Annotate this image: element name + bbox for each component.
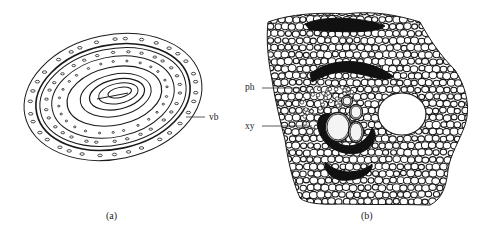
vascular-bundle-dot — [167, 47, 171, 50]
vascular-bundle-dot — [61, 73, 65, 75]
cell — [444, 45, 451, 51]
cell — [275, 65, 282, 71]
caption-b: (b) — [361, 210, 373, 222]
vascular-bundle-dot — [62, 89, 64, 91]
cell — [332, 191, 338, 197]
cell — [436, 129, 443, 135]
cell — [325, 192, 332, 198]
vascular-bundle-dot — [68, 81, 70, 83]
cell — [429, 72, 437, 79]
cell — [289, 108, 295, 114]
cell — [404, 23, 411, 30]
vascular-bundle-dot — [29, 113, 33, 116]
cell — [465, 45, 471, 50]
cell — [458, 16, 464, 22]
cell — [300, 185, 306, 191]
vascular-bundle-dot — [82, 59, 86, 61]
cell — [310, 163, 318, 170]
cell — [314, 59, 321, 65]
small-cell — [336, 104, 340, 108]
cell — [296, 178, 303, 184]
cell — [349, 156, 357, 163]
cell — [455, 192, 461, 198]
cell — [321, 45, 328, 51]
cell — [296, 80, 302, 85]
cell — [303, 52, 309, 57]
cell — [375, 177, 383, 184]
vascular-bundle-dot — [150, 66, 152, 68]
cell — [364, 114, 372, 121]
vascular-bundle-dot — [113, 38, 117, 41]
cell — [317, 149, 324, 155]
cell — [285, 44, 292, 50]
cell — [353, 80, 360, 87]
cell — [357, 86, 363, 92]
cell — [300, 86, 306, 91]
cell — [275, 191, 281, 197]
cell — [263, 16, 271, 23]
vascular-bundle-dot — [100, 63, 102, 65]
vascular-bundle-dot — [44, 109, 48, 111]
vascular-bundle-dot — [165, 96, 167, 98]
cell — [375, 191, 383, 198]
cell — [267, 38, 273, 44]
cell — [469, 178, 476, 185]
cell — [285, 114, 293, 121]
cell — [289, 192, 296, 198]
vascular-bundle-dot — [158, 138, 162, 141]
cell — [448, 94, 454, 99]
label-ph: ph — [245, 82, 255, 92]
cell — [331, 36, 339, 43]
cell — [393, 198, 399, 204]
cell — [462, 136, 468, 142]
cell — [393, 31, 400, 37]
cell — [267, 10, 273, 15]
cell — [303, 178, 309, 183]
cell — [277, 198, 285, 205]
cell — [386, 199, 392, 205]
cell — [451, 87, 457, 93]
vascular-bundle-dot — [175, 75, 179, 77]
cell — [296, 108, 302, 114]
cell — [429, 87, 436, 93]
cell — [328, 156, 335, 162]
cell — [271, 114, 279, 121]
xylem-vessel — [343, 97, 351, 105]
small-cell — [320, 100, 324, 104]
cell — [458, 199, 465, 205]
cell — [408, 31, 415, 37]
cell — [448, 192, 454, 198]
vascular-bundle-dot — [35, 80, 39, 83]
cell — [325, 10, 331, 16]
cell — [379, 171, 386, 177]
cell — [300, 30, 306, 36]
cell — [278, 185, 285, 192]
cell — [404, 10, 411, 16]
cell — [283, 38, 289, 43]
vascular-bundle-dot — [137, 125, 139, 127]
cell — [440, 136, 446, 142]
cell — [458, 143, 465, 149]
cell — [317, 36, 325, 43]
small-cell — [350, 90, 354, 94]
cell — [382, 163, 390, 170]
vascular-bundle-dot — [60, 113, 62, 115]
cell — [422, 171, 429, 177]
vascular-bundle-dot — [65, 120, 67, 122]
cell — [469, 9, 477, 16]
cell — [300, 73, 306, 79]
cell — [274, 10, 281, 16]
cell — [454, 108, 460, 113]
vascular-bundle-dot — [191, 72, 195, 75]
vascular-bundle-dot — [84, 130, 86, 132]
cell — [418, 191, 425, 198]
cell — [462, 10, 469, 16]
cell — [277, 58, 285, 65]
cell — [306, 114, 314, 121]
cell — [286, 185, 292, 191]
cell — [340, 38, 346, 44]
cell — [282, 192, 288, 198]
cell — [390, 192, 397, 198]
label-vb: vb — [209, 112, 219, 122]
cell — [364, 198, 372, 205]
